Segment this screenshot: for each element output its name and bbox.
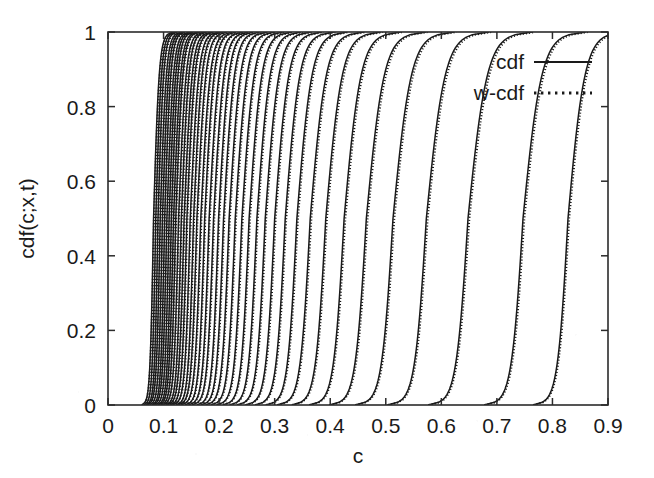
y-tick-label: 0.2	[67, 319, 96, 342]
x-tick-label: 0.4	[316, 414, 346, 437]
y-tick-label: 0.6	[67, 170, 96, 193]
curve-cdf	[309, 32, 401, 405]
y-tick-label: 0.8	[67, 96, 96, 119]
legend-label-wcdf: w-cdf	[473, 81, 524, 104]
x-tick-label: 0.7	[482, 414, 511, 437]
x-tick-label: 0.6	[427, 414, 456, 437]
curve-w-cdf	[211, 32, 276, 405]
curve-cdf	[237, 32, 311, 405]
x-tick-label: 0	[102, 414, 114, 437]
curve-group	[142, 32, 627, 405]
curve-w-cdf	[278, 32, 366, 405]
x-tick-label: 0.5	[371, 414, 400, 437]
curve-w-cdf	[230, 32, 303, 405]
x-tick-label: 0.9	[593, 414, 622, 437]
x-tick-label: 0.8	[538, 414, 567, 437]
curve-cdf	[533, 32, 625, 405]
cdf-chart-figure: 00.10.20.30.40.50.60.70.80.900.20.40.60.…	[0, 0, 654, 478]
x-tick-label: 0.1	[149, 414, 178, 437]
legend-label-cdf: cdf	[496, 50, 524, 73]
y-tick-label: 0.4	[67, 245, 97, 268]
y-axis-label: cdf(c;x,t)	[15, 178, 38, 259]
curve-cdf	[355, 32, 454, 405]
x-tick-label: 0.2	[205, 414, 234, 437]
y-tick-label: 1	[84, 21, 96, 44]
curve-w-cdf	[533, 32, 626, 405]
chart-svg: 00.10.20.30.40.50.60.70.80.900.20.40.60.…	[0, 0, 654, 478]
y-tick-label: 0	[84, 394, 96, 417]
curve-w-cdf	[356, 32, 457, 405]
x-tick-label: 0.3	[260, 414, 289, 437]
curve-w-cdf	[206, 32, 268, 405]
x-axis-label: c	[353, 444, 364, 467]
curve-w-cdf	[292, 32, 383, 405]
